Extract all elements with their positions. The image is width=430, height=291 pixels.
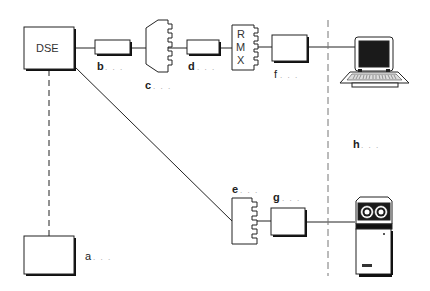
label-h: h (353, 138, 360, 150)
label-g-dots: . . . (282, 194, 301, 203)
node-a[interactable] (24, 236, 76, 276)
label-f-dots: . . . (280, 71, 299, 80)
dse-label: DSE (36, 42, 59, 54)
node-b[interactable] (95, 40, 132, 56)
label-a: a (85, 250, 92, 262)
label-f: f (274, 68, 278, 80)
label-e-dots: . . . (240, 186, 259, 195)
label-h-dots: . . . (361, 141, 380, 150)
node-d[interactable] (187, 40, 221, 56)
label-d: d (188, 60, 195, 72)
label-g: g (273, 191, 280, 203)
terminal-device-icon[interactable] (356, 197, 393, 277)
rmx-letter-r: R (237, 28, 245, 40)
label-d-dots: . . . (197, 63, 216, 72)
rmx-letter-m: M (236, 41, 245, 53)
node-dse[interactable]: DSE (24, 27, 76, 71)
rmx-letter-x: X (237, 54, 245, 66)
node-e-connector[interactable] (232, 198, 257, 244)
label-a-dots: . . . (93, 253, 112, 262)
connection-lines (49, 20, 355, 276)
diagram-canvas: DSE a . . . b . . . c . . . d . . . R M … (0, 0, 430, 291)
label-b-dots: . . . (105, 63, 124, 72)
laptop-icon[interactable] (340, 37, 409, 87)
label-c-dots: . . . (153, 82, 172, 91)
node-f[interactable] (272, 35, 309, 63)
label-b: b (97, 60, 104, 72)
label-e: e (232, 183, 238, 195)
node-g[interactable] (271, 208, 307, 237)
node-c-connector[interactable] (146, 20, 172, 72)
label-c: c (145, 79, 151, 91)
